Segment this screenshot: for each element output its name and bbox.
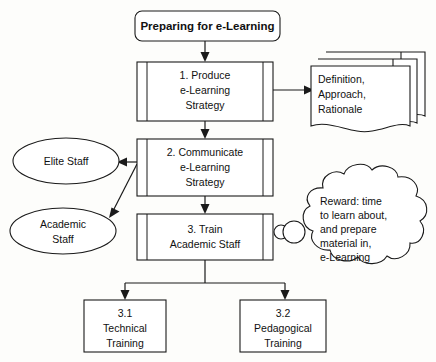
step-1-line-3: Strategy [185, 99, 225, 111]
cloud-line-2: to learn about, [320, 209, 387, 221]
step-3-2-box[interactable]: 3.2 Pedagogical Training [240, 300, 326, 352]
elite-staff-node[interactable]: Elite Staff [13, 138, 119, 184]
title-box-label: Preparing for e-Learning [140, 20, 274, 32]
title-box[interactable]: Preparing for e-Learning [135, 11, 280, 41]
arrowhead-step1-to-step2 [201, 129, 210, 139]
step-3-box[interactable]: 3. Train Academic Staff [137, 214, 273, 260]
cloud-line-3: and prepare [320, 223, 377, 235]
academic-staff-node[interactable]: Academic Staff [10, 208, 116, 254]
academic-staff-line-2: Staff [52, 233, 73, 245]
reward-cloud[interactable]: Reward: time to learn about, and prepare… [274, 164, 427, 263]
step-1-box[interactable]: 1. Produce e-Learning Strategy [137, 62, 273, 121]
cloud-line-1: Reward: time [320, 195, 382, 207]
flowchart-canvas: Definition, Approach, Rationale Preparin… [0, 0, 436, 362]
step-3-1-line-2: Technical [103, 322, 147, 334]
document-line-3: Rationale [318, 103, 363, 115]
step-3-line-2: Academic Staff [170, 238, 241, 250]
step-1-line-1: 1. Produce [180, 69, 231, 81]
step-3-line-1: 3. Train [187, 223, 222, 235]
step-2-box[interactable]: 2. Communicate e-Learning Strategy [137, 139, 273, 196]
cloud-tail-bubble-large [283, 221, 305, 243]
elite-staff-label: Elite Staff [44, 155, 89, 167]
document-line-1: Definition, [318, 73, 365, 85]
arrowhead-step2-to-step3 [201, 204, 210, 214]
academic-staff-line-1: Academic [40, 218, 86, 230]
cloud-line-5: e-Learning [320, 251, 370, 263]
step-1-line-2: e-Learning [180, 84, 230, 96]
step-3-1-line-3: Training [106, 337, 144, 349]
step-2-line-2: e-Learning [180, 161, 230, 173]
academic-staff-shape [10, 208, 116, 254]
document-line-2: Approach, [318, 88, 366, 100]
strategy-documents[interactable]: Definition, Approach, Rationale [311, 52, 425, 132]
arrowhead-step2-to-academic-staff [109, 207, 120, 218]
cloud-line-4: material in, [320, 237, 371, 249]
step-3-2-line-3: Training [264, 337, 302, 349]
step-3-2-line-1: 3.2 [276, 307, 291, 319]
step-2-line-3: Strategy [185, 176, 225, 188]
connector-step2-to-academic-staff [113, 164, 137, 211]
arrowhead-step3-to-step31 [121, 290, 130, 300]
step-3-shape [137, 214, 273, 260]
flowchart-diagram: Definition, Approach, Rationale Preparin… [0, 0, 436, 362]
arrowhead-step3-to-step32 [281, 290, 290, 300]
step-3-1-box[interactable]: 3.1 Technical Training [84, 300, 166, 352]
step-2-line-1: 2. Communicate [167, 146, 244, 158]
step-3-2-line-2: Pedagogical [254, 322, 312, 334]
step-3-1-line-1: 3.1 [118, 307, 133, 319]
arrowhead-title-to-step1 [201, 52, 210, 62]
